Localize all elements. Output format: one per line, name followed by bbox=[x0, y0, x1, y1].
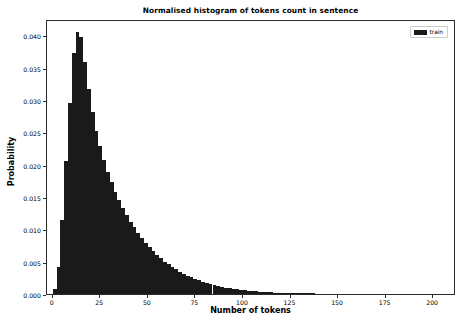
x-tick-label: 100 bbox=[236, 299, 248, 306]
x-tick-label: 25 bbox=[95, 299, 103, 306]
y-tick-label: 0.040 bbox=[13, 33, 41, 40]
y-tick-label: 0.005 bbox=[13, 259, 41, 266]
x-tick-label: 150 bbox=[331, 299, 343, 306]
legend[interactable]: train bbox=[410, 26, 449, 38]
x-axis-label: Number of tokens bbox=[46, 306, 455, 315]
legend-label-train: train bbox=[430, 29, 444, 35]
x-tick-label: 175 bbox=[379, 299, 391, 306]
x-tick-mark bbox=[337, 295, 338, 298]
chart-title: Normalised histogram of tokens count in … bbox=[46, 6, 455, 15]
y-tick-mark bbox=[43, 295, 46, 296]
y-tick-label: 0.010 bbox=[13, 227, 41, 234]
chart-figure: Normalised histogram of tokens count in … bbox=[0, 0, 468, 326]
x-tick-mark bbox=[290, 295, 291, 298]
x-tick-label: 50 bbox=[143, 299, 151, 306]
legend-swatch-train bbox=[414, 30, 427, 35]
x-tick-label: 0 bbox=[50, 299, 54, 306]
x-tick-mark bbox=[242, 295, 243, 298]
histogram-bar bbox=[445, 294, 449, 295]
x-tick-mark bbox=[99, 295, 100, 298]
histogram-bars bbox=[47, 21, 454, 294]
x-tick-mark bbox=[385, 295, 386, 298]
x-tick-mark bbox=[194, 295, 195, 298]
y-tick-label: 0.020 bbox=[13, 162, 41, 169]
y-tick-label: 0.030 bbox=[13, 97, 41, 104]
y-tick-label: 0.035 bbox=[13, 65, 41, 72]
plot-area: train bbox=[46, 20, 455, 295]
x-tick-mark bbox=[52, 295, 53, 298]
y-tick-label: 0.025 bbox=[13, 130, 41, 137]
x-tick-label: 200 bbox=[426, 299, 438, 306]
x-tick-label: 125 bbox=[284, 299, 296, 306]
y-axis-label: Probability bbox=[7, 122, 16, 202]
x-tick-mark bbox=[432, 295, 433, 298]
x-tick-mark bbox=[147, 295, 148, 298]
x-tick-label: 75 bbox=[190, 299, 198, 306]
y-tick-label: 0.015 bbox=[13, 194, 41, 201]
y-tick-label: 0.000 bbox=[13, 292, 41, 299]
